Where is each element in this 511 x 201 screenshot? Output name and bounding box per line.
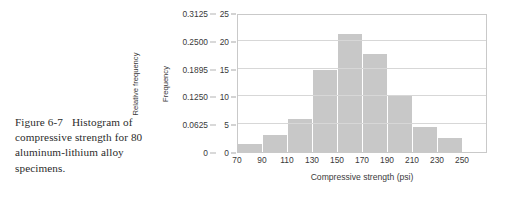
x-axis-ticks: 7090110130150170190210230250 xyxy=(237,155,487,169)
histogram-bar xyxy=(238,144,263,152)
x-axis-tick-label: 190 xyxy=(380,155,394,165)
frequency-axis: Frequency 0510152025 xyxy=(196,14,236,153)
x-axis-tick-label: 130 xyxy=(305,155,319,165)
x-axis-tick-label: 70 xyxy=(232,155,241,165)
histogram-bar xyxy=(363,54,388,152)
frequency-tick-mark xyxy=(231,69,236,70)
frequency-tick-label: 20 xyxy=(220,37,229,47)
histogram-bar xyxy=(438,138,463,152)
x-axis-tick-label: 250 xyxy=(455,155,469,165)
frequency-tick-mark xyxy=(231,14,236,15)
histogram-figure: Relative frequency 00.06250.12500.18950.… xyxy=(0,0,511,201)
x-axis-tick-label: 170 xyxy=(355,155,369,165)
histogram-bars xyxy=(238,15,486,152)
frequency-tick-mark xyxy=(231,153,236,154)
x-axis-tick-label: 110 xyxy=(280,155,293,165)
x-axis-tick-label: 210 xyxy=(405,155,419,165)
x-axis-tick-label: 90 xyxy=(257,155,266,165)
gridline xyxy=(238,68,486,69)
frequency-tick-mark xyxy=(231,125,236,126)
x-axis-tick-label: 150 xyxy=(330,155,344,165)
gridline xyxy=(238,95,486,96)
histogram-bar xyxy=(338,34,363,152)
frequency-tick-label: 25 xyxy=(220,9,229,19)
histogram-bar xyxy=(413,127,438,152)
gridline xyxy=(238,40,486,41)
frequency-tick-label: 5 xyxy=(224,120,229,130)
histogram-bar xyxy=(263,135,288,152)
x-axis-label: Compressive strength (psi) xyxy=(237,172,487,182)
gridline xyxy=(238,123,486,124)
frequency-tick-label: 15 xyxy=(220,65,229,75)
frequency-tick-label: 0 xyxy=(224,148,229,158)
frequency-tick-label: 10 xyxy=(220,92,229,102)
frequency-tick-mark xyxy=(231,41,236,42)
histogram-bar xyxy=(313,70,338,152)
frequency-tick-mark xyxy=(231,97,236,98)
plot-area xyxy=(237,14,487,153)
frequency-axis-title: Frequency xyxy=(161,66,170,102)
relative-frequency-axis-title: Relative frequency xyxy=(131,52,140,115)
x-axis-tick-label: 230 xyxy=(430,155,444,165)
